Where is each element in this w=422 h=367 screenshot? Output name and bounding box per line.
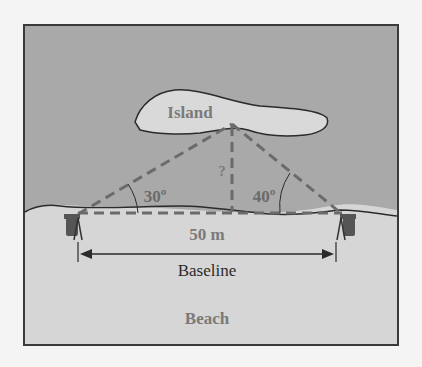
angle-left-label: 30º [144,187,167,206]
baseline-label: Baseline [178,261,237,280]
island-label: Island [167,103,213,122]
beach-label: Beach [185,309,230,328]
island-triangulation-diagram: Island ? 30º 40º 50 m Baseline Beach [0,0,422,367]
distance-label: 50 m [189,225,224,244]
unknown-height-label: ? [218,163,226,179]
angle-right-label: 40º [253,187,276,206]
